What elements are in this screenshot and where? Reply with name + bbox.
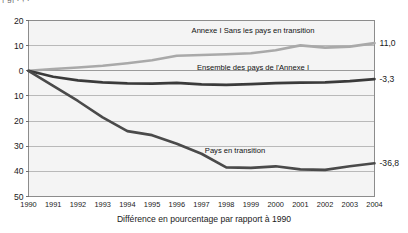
x-tick-label: 1990: [20, 200, 36, 209]
x-tick-label: 2002: [317, 200, 333, 209]
x-tick-label: 1998: [218, 200, 234, 209]
series-end-label: -3,3: [380, 74, 395, 84]
x-tick-label: 1991: [45, 200, 61, 209]
x-tick-label: 1997: [193, 200, 209, 209]
y-tick-label: 10: [14, 91, 24, 101]
x-tick-label: 2004: [366, 200, 382, 209]
series-end-value-labels: 11,0-3,3-36,8: [380, 38, 400, 168]
x-tick-label: 1999: [243, 200, 259, 209]
chart-caption: Différence en pourcentage par rapport à …: [0, 214, 408, 224]
x-tick-label: 1992: [70, 200, 86, 209]
x-tick-label: 1996: [169, 200, 185, 209]
y-tick-label: 20: [14, 116, 24, 126]
x-tick-label: 2000: [267, 200, 283, 209]
y-tick-label: 30: [14, 141, 24, 151]
x-tick-label: 1994: [119, 200, 135, 209]
x-axis-tick-labels: 1990199119921993199419951996199719981999…: [20, 200, 382, 209]
x-tick-label: 1993: [94, 200, 110, 209]
y-tick-label: 0: [19, 66, 24, 76]
x-tick-label: 1995: [144, 200, 160, 209]
y-tick-label: 20: [14, 16, 24, 26]
series-label: Pays en transition: [205, 146, 265, 155]
chart-figure: | g| . , . 201001020304050 1990199119921…: [0, 0, 408, 233]
line-chart: 201001020304050 199019911992199319941995…: [0, 0, 408, 233]
series-label: Annexe I Sans les pays en transition: [192, 26, 315, 35]
y-tick-label: 10: [14, 41, 24, 51]
series-end-label: 11,0: [380, 38, 396, 48]
y-axis-tick-labels: 201001020304050: [14, 16, 29, 202]
y-tick-label: 40: [14, 166, 24, 176]
x-tick-label: 2001: [292, 200, 308, 209]
x-tick-label: 2003: [342, 200, 358, 209]
series-label: Ensemble des pays de l'Annexe I: [197, 63, 309, 72]
series-end-label: -36,8: [380, 158, 400, 168]
